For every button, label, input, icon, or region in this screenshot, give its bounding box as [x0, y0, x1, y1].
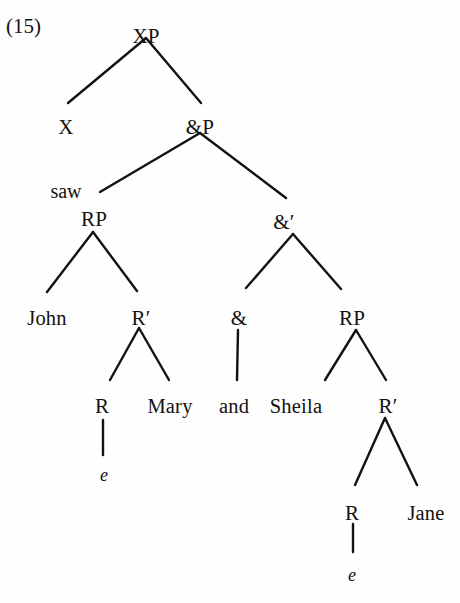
tree-edge-andbar-to-and-head — [246, 234, 293, 288]
tree-node-jane: Jane — [407, 503, 444, 524]
tree-node-andp: &P — [186, 117, 214, 138]
tree-branch-lines — [0, 0, 460, 603]
figure-canvas: (15) XPX&PRP&′JohnR′&RPRMaryandSheilaR′e… — [0, 0, 460, 603]
tree-node-rbar-right: R′ — [378, 396, 397, 417]
tree-node-mary: Mary — [147, 396, 192, 417]
tree-edge-rp-left-to-john — [47, 232, 93, 292]
tree-node-andbar: &′ — [273, 212, 294, 233]
tree-edge-rp-right-to-sheila — [325, 330, 356, 380]
tree-edge-rp-right-to-rbar-right — [356, 330, 386, 380]
tree-node-john: John — [27, 308, 67, 329]
tree-node-r-right: R — [345, 503, 359, 524]
tree-edge-rbar-right-to-jane — [385, 418, 417, 485]
tree-node-xp: XP — [132, 26, 159, 47]
tree-edge-rp-left-to-rbar-left — [93, 232, 137, 291]
tree-node-sheila: Sheila — [270, 396, 322, 417]
tree-node-and-word: and — [219, 396, 249, 417]
tree-node-e-left: e — [100, 466, 108, 484]
tree-edge-rbar-left-to-r-left — [110, 328, 139, 380]
tree-edge-andbar-to-rp-right — [293, 234, 341, 289]
tree-edge-and-head-to-and-word — [237, 330, 238, 380]
tree-node-e-right: e — [348, 566, 356, 584]
tree-node-x: X — [58, 117, 73, 138]
tree-node-r-left: R — [95, 396, 109, 417]
tree-node-and-head: & — [231, 308, 248, 329]
tree-node-rbar-left: R′ — [131, 308, 150, 329]
tree-edge-andp-to-rp-left — [100, 133, 200, 192]
tree-edge-andp-to-andbar — [200, 133, 286, 198]
tree-edge-rbar-left-to-mary — [139, 328, 169, 380]
tree-node-rp-right: RP — [339, 308, 365, 329]
tree-node-rp-left: RP — [81, 209, 107, 230]
tree-edge-rbar-right-to-r-right — [355, 418, 385, 485]
annotation-saw-label: saw — [50, 181, 81, 201]
